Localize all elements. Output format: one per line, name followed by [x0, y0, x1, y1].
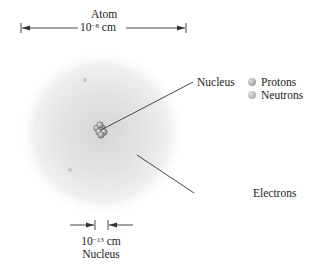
electrons-callout-label: Electrons — [253, 187, 296, 200]
nucleus-dimension-arrow — [70, 220, 133, 230]
nucleus-size-unit: cm — [107, 235, 121, 247]
nucleus-scale-caption: Nucleus — [66, 248, 136, 261]
nucleus-size-exponent: −13 — [93, 236, 104, 244]
atom-size-exponent: −8 — [92, 22, 99, 30]
legend-label-protons: Protons — [261, 76, 296, 88]
nucleus-size-label: 10−13 cm — [66, 235, 136, 248]
legend-label-neutrons: Neutrons — [261, 89, 303, 101]
electron-dot — [83, 78, 87, 82]
legend-item-protons: Protons — [248, 76, 296, 88]
proton-icon — [248, 78, 256, 86]
nucleus-callout-label: Nucleus — [197, 76, 235, 89]
nucleus-size-base: 10 — [81, 235, 93, 247]
atom-diagram-graphic — [0, 0, 320, 271]
atom-size-base: 10 — [80, 21, 92, 33]
neutron-icon — [248, 91, 256, 99]
electron-dot — [68, 168, 72, 172]
atom-size-unit: cm — [102, 21, 116, 33]
atom-size-label: 10−8 cm — [80, 21, 116, 34]
legend-item-neutrons: Neutrons — [248, 89, 303, 101]
atom-label: Atom — [74, 8, 134, 21]
